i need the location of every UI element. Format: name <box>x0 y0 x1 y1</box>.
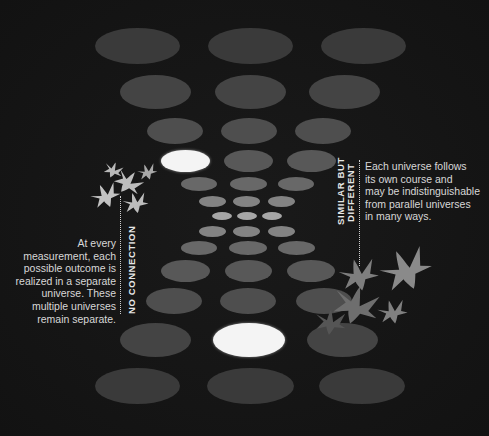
universe <box>295 118 351 144</box>
universe <box>212 212 232 220</box>
universe <box>208 28 293 64</box>
universe <box>181 241 217 255</box>
universe <box>229 241 267 255</box>
universe <box>95 28 180 64</box>
right-caption: Each universe followsits own course andm… <box>365 160 489 223</box>
left-divider-dotted <box>120 196 121 314</box>
bird-icon <box>119 187 151 219</box>
many-worlds-diagram: NO CONNECTION At everymeasurement, eachp… <box>0 0 489 436</box>
universe <box>207 368 294 404</box>
universe <box>199 196 226 207</box>
universe <box>147 118 203 144</box>
similar-but-different-label: SIMILAR BUT DIFFERENT <box>336 157 356 225</box>
universe <box>233 226 260 237</box>
left-caption-line: remain separate. <box>0 313 116 326</box>
universe-highlighted <box>213 323 285 357</box>
left-caption-line: realized in a separate <box>0 275 116 288</box>
universe <box>120 75 191 109</box>
left-caption-line: measurement, each <box>0 250 116 263</box>
universe <box>262 212 282 220</box>
universe <box>181 177 217 191</box>
universe <box>268 196 295 207</box>
universe <box>220 288 276 314</box>
universe <box>215 75 286 109</box>
universe <box>287 150 336 172</box>
universe <box>287 260 335 282</box>
universe <box>278 177 314 191</box>
left-caption-line: universe. These <box>0 287 116 300</box>
no-connection-label: NO CONNECTION <box>127 225 137 314</box>
right-caption-line: its own course and <box>365 173 489 186</box>
right-caption-line: from parallel universes <box>365 198 489 211</box>
left-caption-line: multiple universes <box>0 300 116 313</box>
left-caption: At everymeasurement, eachpossible outcom… <box>0 237 116 325</box>
universe <box>120 323 191 357</box>
universe <box>199 226 226 237</box>
universe <box>161 260 210 282</box>
bird-icon <box>374 294 411 331</box>
right-caption-line: Each universe follows <box>365 160 489 173</box>
universe <box>221 118 277 144</box>
universe <box>233 196 260 207</box>
universe <box>321 28 406 64</box>
universe <box>230 177 267 191</box>
right-caption-line: may be indistinguishable <box>365 185 489 198</box>
different-label: DIFFERENT <box>346 157 356 225</box>
universe <box>309 75 380 109</box>
universe <box>224 150 273 172</box>
universe <box>278 241 315 255</box>
left-caption-line: At every <box>0 237 116 250</box>
left-caption-line: possible outcome is <box>0 262 116 275</box>
universe-highlighted <box>161 150 210 172</box>
universe <box>146 288 202 314</box>
universe <box>95 368 180 404</box>
universe <box>237 212 257 220</box>
bird-icon <box>313 305 348 340</box>
right-divider-dotted <box>359 160 360 266</box>
right-caption-line: in many ways. <box>365 210 489 223</box>
universe <box>225 260 272 282</box>
universe <box>319 368 405 404</box>
universe <box>268 226 295 237</box>
